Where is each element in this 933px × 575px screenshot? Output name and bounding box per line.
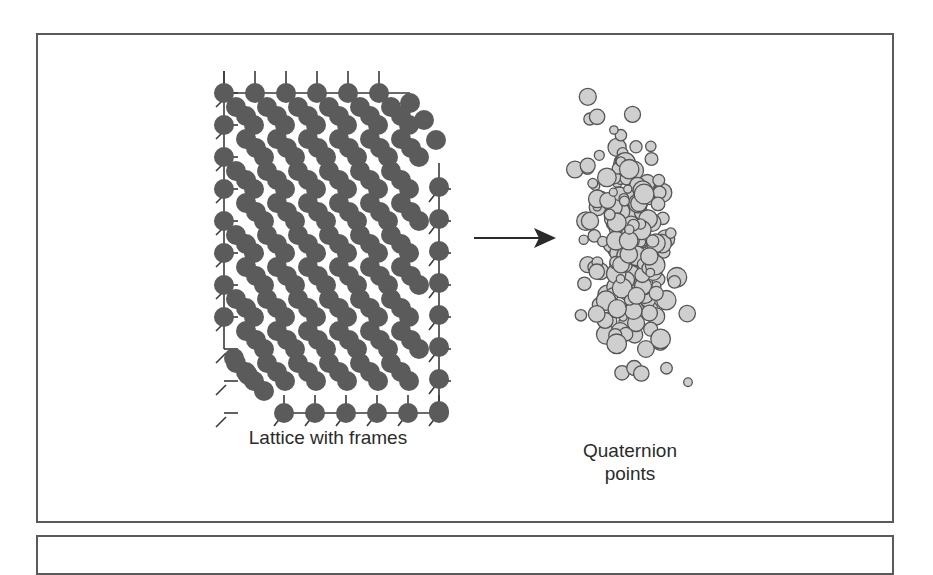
arrow-right-icon <box>474 228 556 248</box>
quaternion-label-line1: Quaternion <box>583 440 677 461</box>
lattice-label: Lattice with frames <box>218 426 438 449</box>
quaternion-label-line2: points <box>605 463 656 484</box>
quaternion-point-cloud <box>567 88 696 386</box>
lattice-with-frames-graphic <box>214 71 451 427</box>
quaternion-label: Quaternion points <box>560 439 700 485</box>
